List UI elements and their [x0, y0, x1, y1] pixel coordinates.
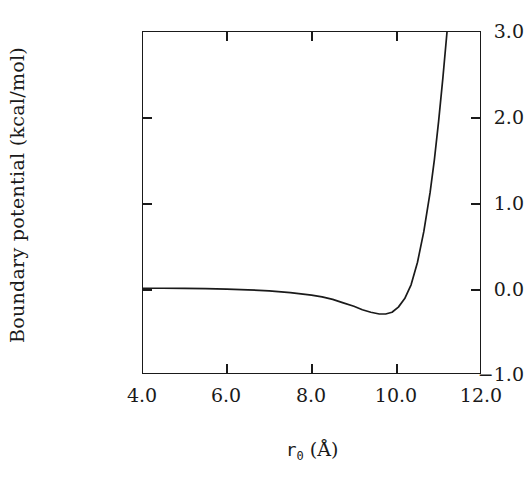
x-axis-symbol: r — [286, 439, 297, 460]
x-axis-unit: (Å) — [310, 438, 339, 460]
potential-curve — [142, 31, 481, 374]
x-tick-label: 8.0 — [271, 386, 351, 405]
x-tick-label: 6.0 — [186, 386, 266, 405]
x-axis-subscript: 0 — [297, 449, 304, 463]
y-axis-label: Boundary potential (kcal/mol) — [0, 0, 34, 405]
x-tick-label: 10.0 — [356, 386, 436, 405]
x-tick-label: 12.0 — [441, 386, 521, 405]
chart-figure: Boundary potential (kcal/mol) 3.0 2.0 1.… — [0, 0, 524, 486]
x-axis-label: r0 (Å) — [142, 438, 482, 463]
x-tick-label: 4.0 — [102, 386, 182, 405]
curve-polyline — [142, 31, 447, 314]
